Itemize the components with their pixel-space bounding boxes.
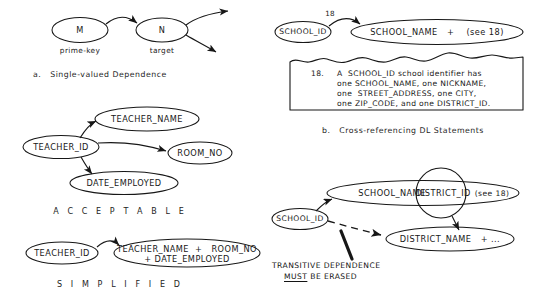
node-label-teacher-name: TEACHER_NAME [111, 115, 183, 124]
node-label-school-id-b: SCHOOL_ID [279, 28, 327, 36]
dashed-transitive-dependence-arrow [328, 221, 381, 235]
node-label-room-no: ROOM_NO [177, 149, 222, 158]
arrow-teacherid-to-teachername [80, 121, 96, 138]
arrow-m-to-n [106, 17, 137, 24]
warning-rest: BE ERASED [307, 272, 357, 281]
node-label-teacher-id-simp: TEACHER_ID [34, 249, 90, 258]
note-number: 18. [311, 70, 324, 78]
arrow-n-lower [186, 35, 216, 52]
node-label-see-18-t: (see 18) [475, 190, 510, 198]
warning-must-underlined: MUST [284, 272, 307, 281]
figure-page: M prime-key N target a. Single-valued De… [0, 0, 548, 301]
note-line-3: one STREET_ADDRESS, one CITY, [337, 90, 476, 98]
node-sublabel-target: target [150, 47, 175, 55]
warning-line-2: MUST BE ERASED [284, 273, 357, 281]
note-line-2: one SCHOOL_NAME, one NICKNAME, [337, 80, 486, 88]
edge-label-18: 18 [325, 10, 335, 18]
node-label-school-name-b: SCHOOL_NAME + (see 18) [370, 28, 504, 37]
note-line-1: A SCHOOL_ID school identifier has [337, 70, 482, 78]
section-label-acceptable: A C C E P T A B L E [53, 208, 187, 216]
caption-panel-a: a. Single-valued Dependence [33, 71, 167, 79]
node-label-combined-line1: TEACHER_NAME + ROOM_NO [117, 245, 257, 254]
node-label-m: M [76, 26, 84, 35]
arrow-districtid-to-districtname [452, 216, 459, 230]
caption-panel-b: b. Cross-referencing DL Statements [322, 127, 484, 135]
node-sublabel-prime-key: prime-key [60, 47, 100, 55]
arrow-schoolid-to-schoolname-t [316, 199, 332, 211]
arrow-teacherid-to-combined [97, 241, 119, 247]
node-label-district-name: DISTRICT_NAME + ... [400, 235, 500, 244]
arrow-teacherid-to-dateemployed [81, 157, 92, 174]
section-label-simplified: S I M P L I F I E D [57, 281, 183, 289]
arrow-n-upper [186, 11, 228, 25]
node-label-district-id-t: DISTRICT_ID [415, 189, 471, 198]
node-label-combined-line2: + DATE_EMPLOYED [144, 255, 230, 264]
warning-line-1: TRANSITIVE DEPENDENCE [272, 262, 380, 270]
warning-pointer-line [341, 231, 352, 259]
note-line-4: one ZIP_CODE, and one DISTRICT_ID. [337, 100, 491, 108]
node-label-date-employed: DATE_EMPLOYED [86, 179, 161, 188]
node-label-teacher-id-acc: TEACHER_ID [33, 143, 89, 152]
arrow-schoolid-to-schoolname [329, 19, 360, 26]
node-label-school-id-t: SCHOOL_ID [276, 215, 324, 223]
node-label-n: N [159, 26, 166, 35]
arrow-teacherid-to-roomno [98, 143, 166, 151]
